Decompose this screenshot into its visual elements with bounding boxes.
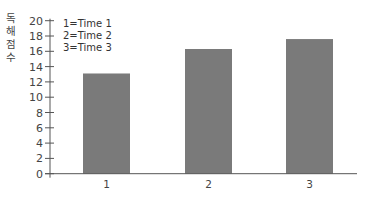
bar [83,73,130,173]
legend-item: 2=Time 2 [63,30,112,42]
y-tick-label: 0 [36,168,43,181]
y-tick-label: 2 [36,152,43,165]
y-axis-label-char: 점 [4,38,18,51]
legend: 1=Time 1 2=Time 2 3=Time 3 [63,18,112,55]
y-tick-label: 14 [29,61,43,74]
bar [185,49,232,174]
y-tick-label: 6 [36,122,43,135]
y-tick-label: 4 [36,137,43,150]
legend-item: 1=Time 1 [63,18,112,30]
y-axis-label: 독 해 점 수 [4,12,18,64]
y-axis-label-char: 해 [4,25,18,38]
chart-canvas: 12302468101214161820 [0,0,371,197]
y-tick-label: 10 [29,91,43,104]
y-tick-label: 16 [29,45,43,58]
x-tick-label: 3 [306,178,313,190]
y-axis-label-char: 수 [4,51,18,64]
legend-item: 3=Time 3 [63,42,112,54]
y-tick-label: 20 [29,15,43,28]
y-axis-label-char: 독 [4,12,18,25]
bar [286,39,333,174]
y-tick-label: 8 [36,107,43,120]
y-tick-label: 18 [29,30,43,43]
x-tick-label: 1 [103,178,110,190]
x-tick-label: 2 [205,178,212,190]
y-tick-label: 12 [29,76,43,89]
